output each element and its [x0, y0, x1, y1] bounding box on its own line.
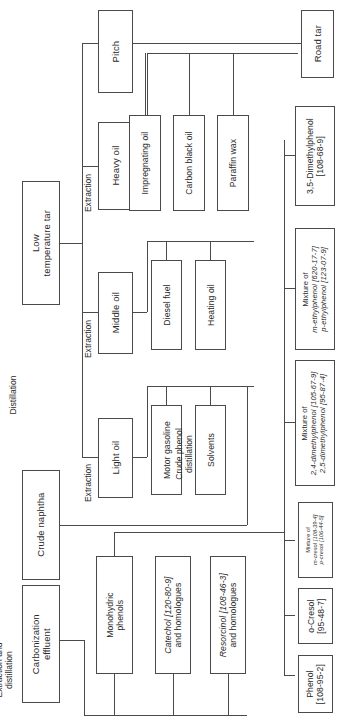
node-catechol: Catechol [120-80-9]and homologues: [155, 556, 191, 674]
flowchart-canvas: Lowtemperature tar Crude naphtha Carboni…: [0, 0, 344, 727]
node-solvents: Solvents: [195, 405, 226, 495]
connector-crude-phenol-bus: [284, 140, 285, 675]
node-carbonization-effluent: Carbonizationeffluent: [22, 585, 60, 703]
node-label: Diesel fuel: [161, 284, 171, 325]
node-label: 3,5-Dimethylphenol[108-68-9]: [305, 118, 325, 194]
connector-riser-monohydric: [114, 674, 115, 715]
node-label: Catechol [120-80-9]and homologues: [163, 576, 183, 653]
node-label: Resorcinol [108-46-3]and homologues: [218, 573, 238, 657]
node-label: Crude naphtha: [35, 493, 46, 557]
connector-riser-catechol: [173, 674, 174, 715]
node-label: Pitch: [110, 41, 121, 63]
connector-bus-to-35-dimethylphenol: [284, 155, 295, 156]
node-label: o-Cresol[95-48-7]: [305, 598, 325, 633]
connector-middle-bus-top: [147, 241, 254, 242]
node-label: Phenol[108-95-2]: [305, 664, 325, 704]
node-road-tar: Road tar: [301, 10, 334, 78]
label-extraction-heavy: Extraction: [83, 162, 93, 224]
node-label: Mixture ofm-ethylphenol [620-17-7]p-ethy…: [302, 246, 329, 333]
connector-effluent-riser: [84, 640, 85, 715]
connector-drop-diesel: [166, 241, 167, 260]
connector-drop-motor-gasoline: [166, 386, 167, 405]
node-pitch: Pitch: [98, 10, 133, 93]
connector-monohydric-top-riser: [114, 532, 115, 556]
node-label: Heating oil: [205, 284, 215, 326]
label-extraction-and-distillation: Extraction anddistillation: [0, 627, 15, 713]
connector-tar-stub: [60, 243, 82, 244]
node-low-temperature-tar: Lowtemperature tar: [22, 181, 60, 305]
node-carbon-black-oil: Carbon black oil: [173, 115, 205, 211]
connector-distillation-spine: [82, 43, 83, 457]
node-label: Monohydricphenols: [104, 592, 124, 637]
connector-bus-to-phenol: [284, 675, 295, 676]
node-middle-oil: Middle oil: [98, 272, 133, 354]
connector-drop-impregnating: [145, 53, 146, 115]
node-mixture-dimethylphenol: Mixture of2,4-dimethylphenol [105-67-9]2…: [295, 360, 335, 486]
node-label: Lowtemperature tar: [30, 210, 52, 276]
node-label: Mixture ofm-cresol [108-39-4]p-cresol [1…: [306, 515, 326, 565]
connector-pitch-to-road-tar: [133, 43, 301, 44]
node-label: Carbon black oil: [184, 131, 194, 194]
node-label: Middle oil: [110, 292, 121, 333]
node-label: Motor gasoline: [161, 421, 171, 479]
node-mixture-cresol: Mixture ofm-cresol [108-39-4]p-cresol [1…: [298, 502, 333, 578]
node-heavy-oil: Heavy oil: [98, 122, 133, 210]
node-label: Road tar: [312, 25, 323, 62]
connector-bus-to-cresol-mixture: [284, 540, 295, 541]
connector-spine-to-pitch: [82, 43, 98, 44]
node-label: Heavy oil: [110, 146, 121, 186]
connector-light-bus-top: [147, 386, 254, 387]
connector-phenol-bus-join: [267, 532, 284, 533]
connector-drop-heating: [210, 241, 211, 260]
node-label: Impregnating oil: [140, 132, 150, 195]
node-label: Light oil: [110, 441, 121, 475]
label-crude-phenol-distillation: Crude phenoldistillation: [174, 408, 195, 500]
node-label: Paraffin wax: [228, 139, 238, 187]
node-diesel-fuel: Diesel fuel: [151, 260, 182, 350]
label-extraction-light: Extraction: [83, 452, 93, 514]
connector-middle-oil-stub: [133, 312, 147, 313]
connector-bus-to-o-cresol: [284, 615, 295, 616]
connector-effluent-stub: [60, 640, 84, 641]
node-label: Carbonizationeffluent: [30, 614, 52, 674]
connector-bus-to-ethylphenol: [284, 288, 295, 289]
label-distillation: Distillation: [8, 360, 18, 430]
node-phenol: Phenol[108-95-2]: [298, 655, 333, 713]
label-extraction-middle: Extraction: [83, 308, 93, 370]
node-light-oil: Light oil: [98, 418, 133, 498]
connector-effluent-bottom-bus: [84, 715, 247, 716]
connector-heavy-bus-top: [147, 53, 298, 54]
node-mixture-ethylphenol: Mixture ofm-ethylphenol [620-17-7]p-ethy…: [295, 228, 335, 350]
node-paraffin-wax: Paraffin wax: [217, 115, 249, 211]
connector-drop-solvents: [210, 386, 211, 405]
node-resorcinol: Resorcinol [108-46-3]and homologues: [210, 556, 246, 674]
node-label: Mixture of2,4-dimethylphenol [105-67-9]2…: [302, 371, 329, 475]
connector-drop-carbon-black: [189, 53, 190, 115]
connector-bus-to-dimethylphenol: [284, 422, 295, 423]
node-heating-oil: Heating oil: [195, 260, 226, 350]
connector-crude-naphtha-riser: [247, 386, 248, 525]
connector-light-oil-stub: [133, 457, 147, 458]
connector-light-bus-riser: [147, 386, 148, 457]
node-crude-naphtha: Crude naphtha: [22, 470, 60, 580]
node-impregnating-oil: Impregnating oil: [129, 115, 161, 211]
connector-middle-bus-riser: [147, 241, 148, 312]
connector-riser-resorcinol: [228, 674, 229, 715]
connector-monohydric-to-phenol-bus: [114, 532, 267, 533]
node-monohydric-phenols: Monohydricphenols: [96, 556, 133, 674]
node-label: Solvents: [205, 433, 215, 467]
connector-crude-naphtha-feed: [60, 525, 247, 526]
node-o-cresol: o-Cresol[95-48-7]: [298, 588, 333, 644]
node-3-5-dimethylphenol: 3,5-Dimethylphenol[108-68-9]: [295, 106, 335, 206]
connector-drop-paraffin: [233, 53, 234, 115]
